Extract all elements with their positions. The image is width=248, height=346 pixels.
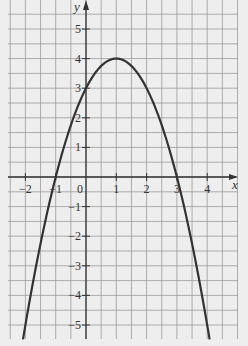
x-tick-label: −2 bbox=[19, 182, 32, 196]
plot-background bbox=[0, 0, 248, 346]
y-tick-label: −3 bbox=[68, 259, 81, 273]
x-tick-label: 2 bbox=[144, 182, 150, 196]
y-tick-label: −5 bbox=[68, 318, 81, 332]
x-tick-label: 1 bbox=[113, 182, 119, 196]
y-tick-label: 3 bbox=[75, 81, 81, 95]
x-axis-label: x bbox=[231, 177, 238, 192]
x-tick-label: 0 bbox=[77, 182, 83, 196]
x-tick-label: 4 bbox=[204, 182, 210, 196]
y-tick-label: 4 bbox=[75, 52, 81, 66]
y-tick-label: −4 bbox=[68, 288, 81, 302]
y-tick-label: 5 bbox=[75, 22, 81, 36]
parabola-chart: −2−101234−5−4−3−2−112345 x y bbox=[0, 0, 248, 346]
y-tick-label: −1 bbox=[68, 200, 81, 214]
y-tick-label: 1 bbox=[75, 140, 81, 154]
y-tick-label: −2 bbox=[68, 229, 81, 243]
y-axis-label: y bbox=[72, 0, 80, 14]
